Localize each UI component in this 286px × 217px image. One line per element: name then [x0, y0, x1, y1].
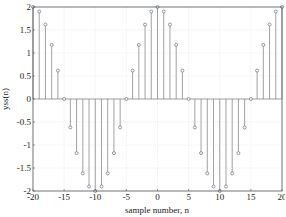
stem-marker [193, 126, 196, 129]
stem-marker [168, 23, 171, 26]
stem-marker [181, 69, 184, 72]
y-tick-label: 1 [27, 48, 32, 58]
stem-marker [106, 172, 109, 175]
stem-marker [212, 185, 215, 188]
x-tick-label: 0 [155, 192, 160, 202]
stem-marker [274, 10, 277, 13]
y-tick-label: 0 [27, 94, 32, 104]
stem-marker [63, 98, 66, 101]
stem-marker [81, 172, 84, 175]
stem-marker [187, 98, 190, 101]
x-axis-label: sample number, n [125, 205, 189, 215]
y-tick-label: -1.5 [17, 163, 32, 173]
x-tick-label: 5 [186, 192, 191, 202]
stem-marker [162, 10, 165, 13]
stem-marker [256, 69, 259, 72]
stem-marker [200, 152, 203, 155]
stem-marker [206, 172, 209, 175]
stem-marker [237, 152, 240, 155]
stem-marker [175, 43, 178, 46]
stem-marker [88, 185, 91, 188]
stem-marker [224, 185, 227, 188]
stem-marker [50, 43, 53, 46]
stem-marker [75, 152, 78, 155]
stem-marker [44, 23, 47, 26]
stem-marker [249, 98, 252, 101]
stem-marker [131, 69, 134, 72]
stem-marker [38, 10, 41, 13]
y-tick-label: -2 [24, 186, 32, 196]
stem-marker [100, 185, 103, 188]
x-tick-label: -10 [89, 192, 101, 202]
y-tick-label: 0.5 [20, 71, 32, 81]
stem-marker [56, 69, 59, 72]
stem-chart: -20-15-10-505101520 -2-1.5-1-0.500.511.5… [0, 0, 285, 217]
x-tick-label: 10 [215, 192, 225, 202]
x-tick-label: -5 [123, 192, 131, 202]
y-tick-label: -1 [24, 140, 32, 150]
y-tick-label: -0.5 [17, 117, 32, 127]
x-tick-label: 15 [246, 192, 256, 202]
stem-marker [125, 98, 128, 101]
stem-marker [144, 23, 147, 26]
x-tick-label: -15 [58, 192, 70, 202]
y-tick-label: 2 [27, 2, 32, 12]
stem-marker [262, 43, 265, 46]
stem-marker [69, 126, 72, 129]
x-tick-label: 20 [278, 192, 286, 202]
stem-marker [231, 172, 234, 175]
stem-marker [243, 126, 246, 129]
stem-marker [137, 43, 140, 46]
stem-marker [150, 10, 153, 13]
stem-marker [112, 152, 115, 155]
y-axis-label: yss(n) [0, 88, 10, 110]
y-tick-label: 1.5 [20, 25, 32, 35]
stem-series [32, 6, 284, 193]
stem-marker [119, 126, 122, 129]
y-axis-ticks: -2-1.5-1-0.500.511.52 [17, 2, 35, 196]
stem-marker [268, 23, 271, 26]
